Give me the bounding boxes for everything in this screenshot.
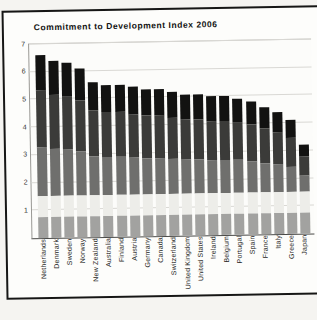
segment-5-black — [88, 82, 98, 111]
segment-4-dark-gray — [233, 122, 244, 160]
bar-greece — [285, 120, 297, 234]
segment-2-light-gray — [169, 194, 179, 215]
x-label-slot: Greece — [286, 235, 297, 297]
segment-1-bottom-gray — [169, 215, 179, 236]
segment-2-light-gray — [90, 196, 100, 217]
segment-2-light-gray — [195, 194, 205, 215]
segment-1-bottom-gray — [274, 213, 284, 234]
scanned-page-frame: Commitment to Development Index 2006 123… — [2, 5, 317, 300]
bar-portugal — [232, 99, 244, 235]
x-label-slot: Germany — [142, 237, 153, 299]
x-label-france: France — [262, 235, 269, 258]
segment-1-bottom-gray — [208, 214, 218, 235]
bar-france — [259, 107, 271, 235]
segment-4-dark-gray — [75, 100, 86, 151]
segment-3-mid-gray — [299, 175, 309, 192]
segment-1-bottom-gray — [130, 216, 140, 237]
x-label-netherlands: Netherlands — [39, 239, 47, 279]
segment-4-dark-gray — [36, 90, 47, 147]
segment-3-mid-gray — [89, 156, 100, 196]
segment-3-mid-gray — [50, 149, 61, 197]
x-label-slot: New Zealand — [90, 238, 101, 300]
segment-5-black — [114, 84, 124, 112]
x-label-slot: Australia — [103, 238, 114, 300]
segment-3-mid-gray — [37, 147, 48, 197]
bar-switzerland — [167, 92, 180, 236]
segment-4-dark-gray — [207, 121, 218, 160]
segment-4-dark-gray — [272, 132, 283, 164]
bar-united-states — [193, 94, 205, 235]
segment-2-light-gray — [51, 196, 61, 217]
segment-2-light-gray — [77, 196, 87, 217]
segment-3-mid-gray — [234, 160, 245, 193]
segment-3-mid-gray — [76, 151, 87, 196]
x-label-slot: Switzerland — [168, 237, 179, 299]
segment-5-black — [246, 101, 256, 124]
x-label-finland: Finland — [118, 238, 125, 262]
x-label-slot: Denmark — [51, 239, 62, 301]
segment-3-mid-gray — [220, 160, 231, 194]
bar-spain — [246, 101, 258, 234]
x-label-slot: France — [260, 235, 271, 297]
segment-1-bottom-gray — [156, 215, 166, 236]
y-tick-label-7: 7 — [9, 40, 25, 47]
segment-1-bottom-gray — [300, 213, 310, 234]
segment-4-dark-gray — [102, 112, 113, 156]
segment-5-black — [141, 89, 151, 115]
segment-3-mid-gray — [116, 156, 127, 195]
segment-5-black — [167, 92, 177, 118]
segment-5-black — [128, 87, 138, 114]
x-label-slot: Portugal — [234, 236, 245, 298]
x-label-slot: Belgium — [221, 236, 232, 298]
segment-4-dark-gray — [259, 128, 270, 163]
segment-1-bottom-gray — [182, 215, 192, 236]
bar-belgium — [219, 96, 231, 235]
x-label-slot: Ireland — [208, 236, 219, 298]
segment-2-light-gray — [156, 194, 166, 215]
segment-2-light-gray — [38, 197, 48, 218]
segment-4-dark-gray — [128, 114, 139, 157]
segment-2-light-gray — [116, 195, 126, 216]
x-label-slot: United Kingdom — [182, 237, 193, 299]
segment-3-mid-gray — [181, 159, 192, 194]
segment-3-mid-gray — [142, 158, 153, 195]
segment-1-bottom-gray — [234, 214, 244, 235]
x-label-slot: Spain — [247, 235, 258, 297]
y-axis: 1234567 — [4, 7, 317, 13]
segment-3-mid-gray — [155, 158, 166, 195]
segment-3-mid-gray — [247, 161, 258, 193]
segment-2-light-gray — [221, 193, 231, 214]
segment-1-bottom-gray — [117, 216, 127, 237]
segment-4-dark-gray — [246, 124, 257, 161]
x-label-slot: Canada — [155, 237, 166, 299]
segment-4-dark-gray — [180, 119, 191, 159]
y-tick-label-1: 1 — [12, 206, 28, 213]
segment-1-bottom-gray — [195, 215, 205, 236]
plot-area — [28, 38, 314, 239]
bar-netherlands — [35, 55, 48, 238]
segment-2-light-gray — [103, 195, 113, 216]
segment-2-light-gray — [208, 194, 218, 215]
bar-italy — [272, 112, 284, 234]
x-label-slot: Finland — [116, 238, 127, 300]
segment-3-mid-gray — [273, 164, 283, 192]
segment-1-bottom-gray — [104, 216, 114, 237]
segment-2-light-gray — [129, 195, 139, 216]
segment-1-bottom-gray — [64, 217, 74, 238]
segment-5-black — [75, 68, 86, 100]
bar-united-kingdom — [180, 94, 192, 235]
x-label-ireland: Ireland — [209, 236, 216, 259]
y-tick-label-2: 2 — [11, 178, 27, 185]
x-label-united-kingdom: United Kingdom — [183, 237, 191, 290]
x-label-italy: Italy — [275, 235, 282, 249]
x-label-slot: Austria — [129, 237, 140, 299]
segment-1-bottom-gray — [51, 217, 61, 238]
segment-5-black — [232, 99, 242, 123]
segment-3-mid-gray — [129, 157, 140, 195]
segment-5-black — [299, 145, 309, 157]
segment-4-dark-gray — [220, 121, 231, 160]
segment-3-mid-gray — [63, 150, 74, 197]
segment-5-black — [219, 96, 229, 121]
segment-4-dark-gray — [115, 112, 126, 156]
x-label-canada: Canada — [157, 237, 164, 263]
